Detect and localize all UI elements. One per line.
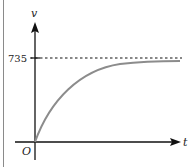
curve — [35, 61, 180, 142]
chart-svg: v t O 735 — [0, 0, 193, 167]
asymptote-value-label: 735 — [8, 53, 27, 64]
x-axis-label: t — [183, 136, 188, 149]
chart-figure: v t O 735 — [0, 0, 193, 167]
origin-label: O — [22, 145, 31, 158]
y-axis-label: v — [31, 7, 38, 20]
